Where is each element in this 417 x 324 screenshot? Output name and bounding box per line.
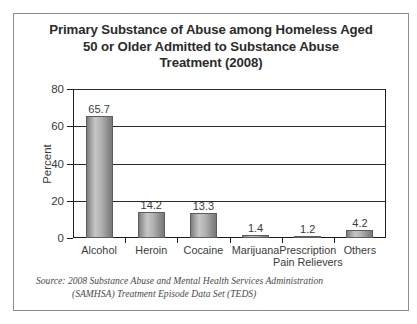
y-tick-label: 40 (51, 158, 64, 170)
x-tick-label: Cocaine (184, 245, 224, 257)
x-separator-tick (177, 238, 178, 243)
x-separator-tick (334, 238, 335, 243)
x-separator-tick (282, 238, 283, 243)
bar-value-label: 13.3 (193, 200, 214, 212)
chart-title-line-3: Treatment (2008) (22, 55, 400, 72)
source-line-1: Source: 2008 Substance Abuse and Mental … (36, 275, 323, 286)
gridline (73, 201, 386, 202)
y-tick-label: 20 (51, 195, 64, 207)
y-tick (67, 126, 73, 127)
bar-value-label: 14.2 (141, 199, 162, 211)
bar-value-label: 65.7 (88, 103, 109, 115)
bar-others: 4.2 (346, 230, 373, 238)
x-separator-tick (230, 238, 231, 243)
x-separator-tick (125, 238, 126, 243)
y-tick-label: 0 (58, 232, 64, 244)
bar-heroin: 14.2 (138, 212, 165, 238)
chart-title-line-2: 50 or Older Admitted to Substance Abuse (22, 39, 400, 56)
bar-marijuana: 1.4 (242, 235, 269, 238)
y-tick (67, 164, 73, 165)
y-tick (67, 238, 73, 239)
bar-alcohol: 65.7 (86, 116, 113, 238)
source-note: Source: 2008 Substance Abuse and Mental … (36, 275, 396, 300)
y-tick (67, 89, 73, 90)
chart-figure: Primary Substance of Abuse among Homeles… (13, 13, 409, 311)
x-tick-label: Others (344, 245, 376, 257)
bar-value-label: 4.2 (352, 217, 367, 229)
x-tick-label: Alcohol (81, 245, 116, 257)
bar-prescription-pain-relievers: 1.2 (294, 236, 321, 239)
y-tick-label: 80 (51, 83, 64, 95)
gridline (73, 164, 386, 165)
y-tick (67, 201, 73, 202)
gridline (73, 89, 386, 90)
bar-cocaine: 13.3 (190, 213, 217, 238)
x-tick-label: PrescriptionPain Relievers (273, 245, 343, 268)
x-tick-label-line-2: Pain Relievers (273, 257, 343, 269)
chart-title: Primary Substance of Abuse among Homeles… (22, 22, 400, 72)
x-tick-label: Heroin (135, 245, 167, 257)
source-line-2: (SAMHSA) Treatment Episode Data Set (TED… (36, 288, 396, 301)
y-tick-label: 60 (51, 120, 64, 132)
chart-title-line-1: Primary Substance of Abuse among Homeles… (22, 22, 400, 39)
gridline (73, 126, 386, 127)
bar-value-label: 1.2 (300, 223, 315, 235)
bar-value-label: 1.4 (248, 222, 263, 234)
plot-area: Percent 020406080 65.7Alcohol14.2Heroin1… (73, 89, 386, 238)
